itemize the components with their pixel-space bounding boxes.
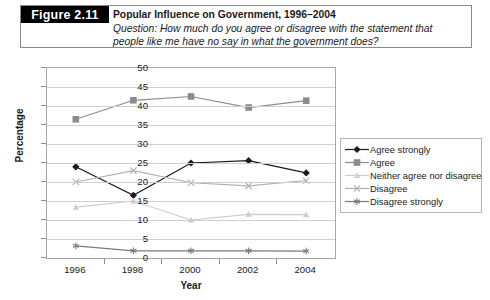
y-axis-tick-mark <box>41 181 46 182</box>
data-point-square <box>354 159 361 166</box>
gridline <box>47 201 335 202</box>
legend-item: Disagree strongly <box>344 195 477 208</box>
plot-area <box>46 67 336 259</box>
y-axis-tick-mark <box>41 162 46 163</box>
figure-question-text: Question: How much do you agree or disag… <box>113 22 465 48</box>
data-point-square <box>188 93 195 100</box>
y-axis-tick-mark <box>41 67 46 68</box>
x-axis-tick-mark <box>276 259 277 264</box>
y-axis-tick-mark <box>41 257 46 258</box>
legend-marker-cross-icon <box>344 182 370 195</box>
y-axis-tick-label: 50 <box>122 63 148 73</box>
x-axis-tick-label: 2002 <box>228 264 268 275</box>
legend-label: Agree strongly <box>370 143 430 156</box>
y-axis-tick-label: 5 <box>122 234 148 244</box>
gridline <box>47 182 335 183</box>
x-axis-tick-label: 1998 <box>112 264 152 275</box>
legend-label: Disagree <box>370 182 408 195</box>
y-axis-tick-mark <box>41 143 46 144</box>
figure-number-tag: Figure 2.11 <box>21 6 109 23</box>
x-axis-tick-mark <box>161 259 162 264</box>
y-axis-tick-label: 20 <box>122 177 148 187</box>
gridline <box>47 239 335 240</box>
x-axis-tick-label: 2000 <box>170 264 210 275</box>
data-point-diamond <box>303 169 310 176</box>
gridline <box>47 220 335 221</box>
data-point-square <box>73 116 80 123</box>
gridline <box>47 106 335 107</box>
figure-caption-block: Figure 2.11 Popular Influence on Governm… <box>20 5 472 48</box>
legend-marker-triangle-icon <box>344 169 370 182</box>
y-axis-tick-mark <box>41 86 46 87</box>
legend-marker-asterisk-icon <box>344 195 370 208</box>
gridline <box>47 125 335 126</box>
legend-item: Disagree <box>344 182 477 195</box>
x-axis-title: Year <box>46 280 336 291</box>
gridline <box>47 87 335 88</box>
y-axis-tick-mark <box>41 238 46 239</box>
data-point-diamond <box>72 163 79 170</box>
y-axis-tick-mark <box>41 105 46 106</box>
data-point-diamond <box>353 146 360 153</box>
y-axis-tick-label: 0 <box>122 253 148 263</box>
data-point-square <box>303 97 310 104</box>
legend-item: Agree <box>344 156 477 169</box>
y-axis-tick-label: 30 <box>122 139 148 149</box>
legend-label: Disagree strongly <box>370 195 443 208</box>
series-disagree <box>73 167 310 189</box>
y-axis-tick-label: 45 <box>122 82 148 92</box>
x-axis-tick-mark <box>104 259 105 264</box>
gridline <box>47 163 335 164</box>
legend-marker-square-icon <box>344 156 370 169</box>
x-axis-tick-mark <box>219 259 220 264</box>
gridline <box>47 144 335 145</box>
x-axis-tick-label: 1996 <box>55 264 95 275</box>
legend-item: Neither agree nor disagree <box>344 169 477 182</box>
figure-title: Popular Influence on Government, 1996–20… <box>113 7 336 22</box>
series-disagree-strongly <box>73 242 309 254</box>
y-axis-tick-label: 25 <box>122 158 148 168</box>
legend-label: Neither agree nor disagree <box>370 169 482 182</box>
chart-container: Percentage 05101520253035404550 19961998… <box>0 52 490 300</box>
y-axis-tick-mark <box>41 200 46 201</box>
legend-marker-diamond-icon <box>344 143 370 156</box>
series-agree <box>73 93 310 122</box>
y-axis-title: Percentage <box>14 86 25 186</box>
x-axis-tick-label: 2004 <box>285 264 325 275</box>
y-axis-tick-label: 40 <box>122 101 148 111</box>
legend-item: Agree strongly <box>344 143 477 156</box>
legend-label: Agree <box>370 156 395 169</box>
y-axis-tick-label: 15 <box>122 196 148 206</box>
y-axis-tick-mark <box>41 219 46 220</box>
y-axis-tick-label: 10 <box>122 215 148 225</box>
y-axis-tick-mark <box>41 124 46 125</box>
y-axis-tick-label: 35 <box>122 120 148 130</box>
chart-legend: Agree stronglyAgreeNeither agree nor dis… <box>340 138 482 213</box>
